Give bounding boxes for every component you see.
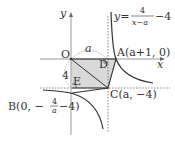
hyperbola-diagram: y x O a 4 D E A(a+1, 0) C(a, −4) B(0, − … [0,0,175,142]
equation-lhs: y= [113,10,129,23]
point-B-frac-num: 4 [52,97,57,106]
point-C-label: C(a, −4) [110,88,157,101]
point-E-label: E [73,75,81,88]
point-B-label: B(0, − [8,100,44,113]
origin-point [70,58,73,61]
segment-4-label: 4 [62,69,69,82]
point-O-label: O [61,48,70,61]
equation-den: x−a [132,18,148,27]
y-axis-arrow [69,12,73,17]
x-axis-label: x [157,58,164,71]
point-D-label: D [99,58,108,71]
y-axis-label: y [59,7,67,20]
point-A-label: A(a+1, 0) [116,46,170,59]
equation-tail: −4 [155,10,171,23]
segment-a-label: a [85,42,92,55]
point-B-coords-post: −4) [59,100,80,113]
point-B-frac-den: a [52,106,57,115]
equation-num: 4 [140,6,145,15]
